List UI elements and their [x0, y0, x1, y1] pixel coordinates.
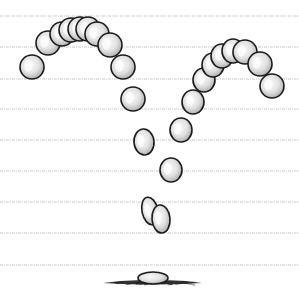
ball: [121, 87, 145, 111]
ball: [248, 52, 272, 76]
ball: [170, 118, 192, 142]
ball: [151, 204, 171, 233]
bouncing-ball-illustration: [0, 0, 299, 290]
ball-sequence: [20, 17, 284, 234]
ball: [182, 90, 204, 114]
ball: [260, 74, 284, 98]
ball: [160, 158, 182, 182]
ball: [111, 55, 135, 79]
ball: [20, 55, 44, 79]
ball: [133, 128, 155, 156]
ball: [98, 33, 122, 57]
squashed-ball: [138, 272, 168, 284]
ground-contact: [103, 272, 202, 285]
